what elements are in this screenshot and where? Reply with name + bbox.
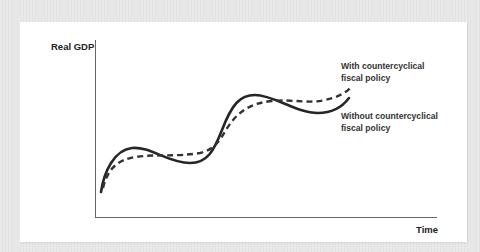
legend-without-line1: Without countercyclical [341,110,438,122]
x-axis-label: Time [416,224,438,235]
legend-with-line1: With countercyclical [341,60,425,72]
legend-with-policy: With countercyclical fiscal policy [341,60,425,84]
legend-without-line2: fiscal policy [341,122,438,134]
series-without-policy-line [101,95,349,192]
legend-without-policy: Without countercyclical fiscal policy [341,110,438,134]
y-axis-label: Real GDP [51,41,94,52]
legend-with-line2: fiscal policy [341,72,425,84]
series-with-policy-line [103,87,351,188]
